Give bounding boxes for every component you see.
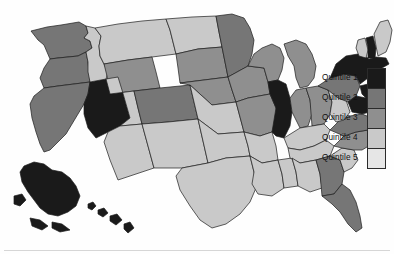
state-NH[interactable] — [366, 36, 376, 58]
legend-label-1: Quintile 1 — [322, 73, 358, 82]
legend-row-4[interactable]: Quintile 4 — [322, 128, 372, 148]
state-CA[interactable] — [30, 82, 90, 152]
state-TX[interactable] — [176, 156, 256, 228]
legend-label-2: Quintile 2 — [322, 93, 358, 102]
legend-row-2[interactable]: Quintile 2 — [322, 88, 372, 108]
state-ME[interactable] — [374, 20, 392, 56]
legend-row-1[interactable]: Quintile 1 — [322, 68, 372, 88]
state-MT[interactable] — [95, 19, 176, 64]
state-AK[interactable] — [14, 162, 80, 232]
state-SD[interactable] — [176, 47, 228, 83]
legend-swatch-2 — [368, 89, 385, 109]
legend-label-3: Quintile 3 — [322, 113, 358, 122]
legend-swatch-4 — [368, 129, 385, 149]
legend-row-5[interactable]: Quintile 5 — [322, 148, 372, 168]
state-MI[interactable] — [284, 40, 316, 88]
legend-swatch-3 — [368, 109, 385, 129]
state-HI[interactable] — [88, 202, 134, 233]
legend-label-4: Quintile 4 — [322, 133, 358, 142]
choropleth-figure: Quintile 1 Quintile 2 Quintile 3 Quintil… — [0, 0, 394, 254]
legend-swatch-1 — [368, 69, 385, 89]
state-NM[interactable] — [142, 119, 208, 168]
state-CO[interactable] — [134, 85, 198, 124]
figure-bottom-rule — [4, 250, 390, 251]
legend-swatch-5 — [368, 149, 385, 168]
legend-swatch-column — [367, 68, 386, 169]
quintile-legend: Quintile 1 Quintile 2 Quintile 3 Quintil… — [322, 66, 388, 172]
legend-row-3[interactable]: Quintile 3 — [322, 108, 372, 128]
legend-label-5: Quintile 5 — [322, 153, 358, 162]
